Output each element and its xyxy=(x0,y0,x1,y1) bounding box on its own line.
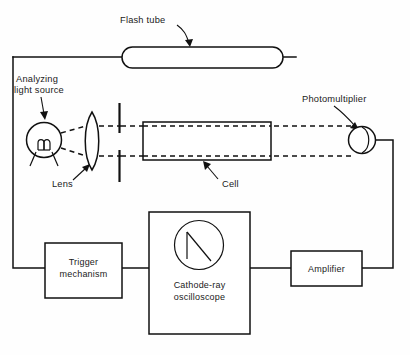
analyzing-light-source-label-line2: light source xyxy=(14,85,64,95)
photomultiplier-leader xyxy=(334,106,355,126)
light-source-arrow-icon xyxy=(40,111,48,120)
photomultiplier-body xyxy=(349,127,376,154)
flash-tube-arrow-icon xyxy=(185,39,193,47)
oscilloscope-label-line2: oscilloscope xyxy=(174,292,225,302)
oscilloscope-label-line1: Cathode-ray xyxy=(174,280,226,290)
beam-source-to-lens-lower xyxy=(61,148,86,156)
amplifier-label: Amplifier xyxy=(308,264,345,274)
analyzing-light-source-label-line1: Analyzing xyxy=(16,74,58,84)
cell-label: Cell xyxy=(222,179,239,189)
photomultiplier-label: Photomultiplier xyxy=(302,94,367,104)
beam-source-to-lens-upper xyxy=(61,126,86,133)
trigger-label-line1: Trigger xyxy=(69,257,99,267)
trigger-label-line2: mechanism xyxy=(60,269,108,279)
wire-amplifier-to-photomultiplier xyxy=(362,140,393,268)
oscilloscope-box xyxy=(149,212,250,334)
cell-leader xyxy=(207,166,218,179)
lens-label: Lens xyxy=(52,179,73,189)
flash-tube-body xyxy=(122,47,283,68)
lens-leader xyxy=(73,168,86,180)
diagram-canvas: Flash tube Analyzing light source Lens xyxy=(0,0,410,355)
light-source-leader xyxy=(41,97,44,114)
lens-body xyxy=(85,112,99,170)
flash-tube-label: Flash tube xyxy=(120,15,165,25)
flash-photolysis-diagram: Flash tube Analyzing light source Lens xyxy=(0,0,410,355)
cell-body xyxy=(143,122,271,160)
light-source-bulb xyxy=(27,123,62,158)
